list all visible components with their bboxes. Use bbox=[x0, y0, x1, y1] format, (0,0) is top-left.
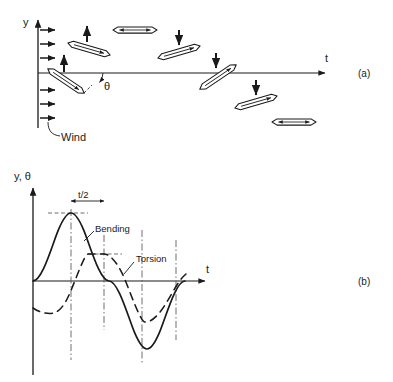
theta-label: θ bbox=[104, 80, 110, 92]
panel-a: y t Wind bbox=[23, 16, 370, 143]
deck-section bbox=[67, 40, 111, 58]
wind-label: Wind bbox=[61, 131, 86, 143]
half-period-label: t/2 bbox=[78, 189, 89, 200]
deck-section bbox=[46, 66, 86, 96]
panel-b-t-axis-label: t bbox=[206, 263, 209, 275]
panel-b-y-axis-label: y, θ bbox=[14, 170, 31, 182]
torsion-curve bbox=[33, 254, 186, 322]
torsion-leader-line bbox=[124, 262, 134, 274]
panel-a-t-axis-label: t bbox=[325, 52, 328, 64]
deck-section bbox=[198, 62, 238, 92]
theta-reference-line bbox=[84, 85, 92, 93]
bending-label: Bending bbox=[95, 223, 130, 234]
panel-b: y, θ t t/2 Bending Torsion bbox=[14, 170, 370, 375]
panel-a-tag: (a) bbox=[358, 68, 370, 79]
theta-arc bbox=[100, 73, 104, 83]
wind-leader-line bbox=[48, 122, 60, 136]
deck-section bbox=[272, 119, 316, 125]
panel-b-tag: (b) bbox=[358, 276, 370, 287]
torsion-label: Torsion bbox=[136, 253, 167, 264]
deck-section bbox=[157, 43, 201, 61]
figure-canvas: y t Wind bbox=[0, 0, 393, 382]
deck-section bbox=[234, 93, 278, 111]
panel-a-y-axis-label: y bbox=[23, 16, 29, 28]
motion-arrow-group bbox=[64, 26, 256, 95]
deck-section bbox=[113, 27, 157, 33]
half-period-dimension: t/2 bbox=[71, 189, 104, 201]
flutter-figure: y t Wind bbox=[0, 0, 393, 382]
